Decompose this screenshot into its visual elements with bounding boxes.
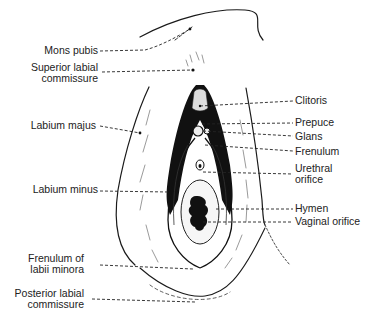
anatomy-diagram: Mons pubis Superior labial commissure La… [0, 0, 385, 333]
label-posterior-labial-commissure: Posterior labial commissure [5, 288, 84, 310]
label-clitoris: Clitoris [295, 95, 327, 106]
label-line: Glans [295, 131, 322, 142]
label-line: Mons pubis [20, 45, 98, 56]
label-line: Hymen [295, 203, 328, 214]
label-mons-pubis: Mons pubis [20, 45, 98, 56]
label-line: Frenulum [295, 146, 339, 157]
leader-frenulum-labii-minora [100, 265, 193, 269]
label-labium-minus: Labium minus [5, 184, 98, 195]
label-line: labii minora [5, 264, 84, 275]
glans [193, 126, 203, 136]
clitoris-body [192, 89, 208, 111]
label-line: Prepuce [295, 117, 334, 128]
label-line: commissure [5, 299, 84, 310]
leader-urethral-orifice [203, 172, 293, 174]
mons-contour [140, 10, 263, 40]
label-line: Labium majus [5, 120, 96, 131]
label-prepuce: Prepuce [295, 117, 334, 128]
label-superior-labial-commissure: Superior labial commissure [5, 62, 98, 84]
label-line: Clitoris [295, 95, 327, 106]
label-vaginal-orifice: Vaginal orifice [295, 216, 360, 227]
label-line: orifice [295, 174, 332, 185]
label-urethral-orifice: Urethral orifice [295, 163, 332, 185]
label-glans: Glans [295, 131, 322, 142]
leader-labium-minus [100, 191, 169, 192]
leader-superior-labial-commissure [102, 70, 193, 72]
labium-majus-left-outline [116, 87, 149, 265]
label-frenulum: Frenulum [295, 146, 339, 157]
labium-majus-right-outline [246, 88, 265, 225]
leader-posterior-labial-commissure [92, 299, 195, 302]
label-frenulum-of-labii-minora: Frenulum of labii minora [5, 253, 84, 275]
label-line: Labium minus [5, 184, 98, 195]
label-line: Vaginal orifice [295, 216, 360, 227]
label-labium-majus: Labium majus [5, 120, 96, 131]
label-line: commissure [5, 73, 98, 84]
leader-mons-pubis [100, 29, 190, 51]
label-hymen: Hymen [295, 203, 328, 214]
